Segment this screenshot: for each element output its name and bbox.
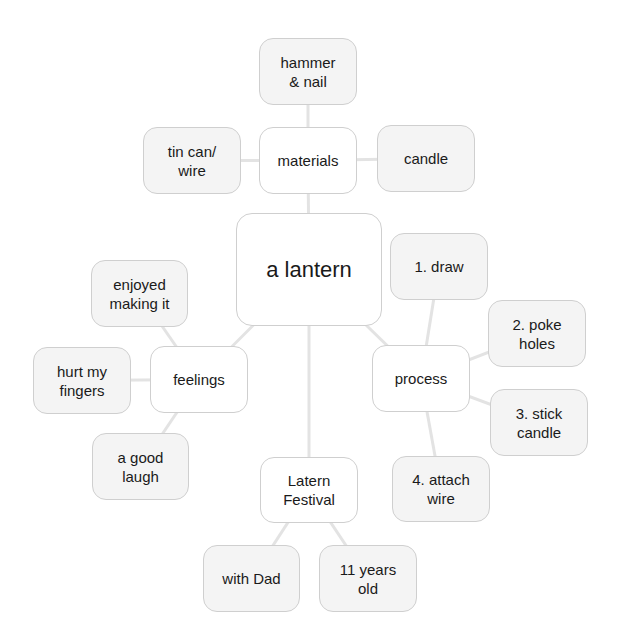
node-stick-candle[interactable]: 3. stick candle (490, 389, 588, 456)
node-root[interactable]: a lantern (236, 213, 382, 326)
node-tin-can-wire[interactable]: tin can/ wire (143, 127, 241, 194)
node-draw[interactable]: 1. draw (390, 233, 488, 300)
node-hurt-my-fingers[interactable]: hurt my fingers (33, 347, 131, 414)
node-a-good-laugh[interactable]: a good laugh (92, 433, 189, 500)
node-hammer-and-nail[interactable]: hammer & nail (259, 38, 357, 105)
node-poke-holes[interactable]: 2. poke holes (488, 300, 586, 367)
node-process[interactable]: process (372, 345, 470, 412)
node-attach-wire[interactable]: 4. attach wire (392, 456, 490, 522)
node-feelings[interactable]: feelings (150, 346, 248, 413)
node-11-years-old[interactable]: 11 years old (319, 545, 417, 612)
node-candle[interactable]: candle (377, 125, 475, 192)
node-enjoyed-making-it[interactable]: enjoyed making it (91, 260, 188, 327)
node-with-dad[interactable]: with Dad (203, 545, 300, 612)
node-latern-festival[interactable]: Latern Festival (260, 457, 358, 523)
concept-map: a lantern materials hammer & nail tin ca… (0, 0, 618, 636)
node-materials[interactable]: materials (259, 127, 357, 194)
